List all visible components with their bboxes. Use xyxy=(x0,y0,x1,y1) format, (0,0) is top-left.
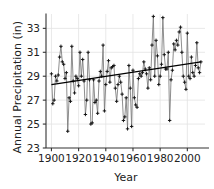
trendline xyxy=(51,62,200,85)
y-tick-label: 25 xyxy=(18,119,40,130)
y-tick-label: 31 xyxy=(18,47,40,58)
y-tick-label: 27 xyxy=(18,95,40,106)
x-tick-label: 2000 xyxy=(170,153,204,164)
y-axis-label: Annual Precipitation (in) xyxy=(12,26,23,154)
y-tick-label: 33 xyxy=(18,23,40,34)
y-tick-label: 29 xyxy=(18,71,40,82)
precipitation-chart-figure: Annual Precipitation (in) Year 232527293… xyxy=(0,0,214,189)
y-tick-label: 23 xyxy=(18,143,40,154)
x-axis-label: Year xyxy=(46,172,206,183)
